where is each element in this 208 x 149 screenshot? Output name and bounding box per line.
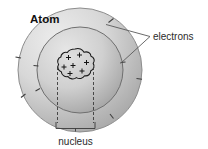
page-title: Atom (30, 13, 59, 25)
atom-diagram: Atom electrons nucleus (0, 0, 208, 149)
electrons-label: electrons (153, 31, 194, 42)
atom-diagram-canvas: Atom electrons nucleus (0, 0, 208, 149)
nucleus-label: nucleus (58, 136, 92, 147)
nucleus-blob (58, 49, 95, 79)
electron-tick (34, 66, 39, 67)
